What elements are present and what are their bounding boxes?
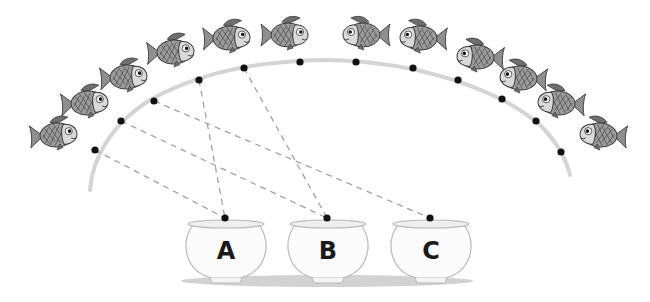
connection-line	[199, 80, 225, 218]
fish-icon[interactable]	[456, 37, 505, 73]
fish-icon[interactable]	[261, 16, 308, 50]
arc-dot[interactable]	[498, 95, 505, 102]
arc-dot[interactable]	[409, 64, 416, 71]
arc-dot[interactable]	[532, 117, 539, 124]
connection-lines	[95, 68, 430, 218]
arc-dot[interactable]	[352, 58, 359, 65]
arc-dot[interactable]	[150, 97, 157, 104]
bowl-label: C	[422, 237, 440, 265]
connection-line	[121, 121, 327, 218]
arc-dot[interactable]	[117, 117, 124, 124]
fish-icon[interactable]	[499, 58, 548, 95]
fish-icon[interactable]	[99, 57, 148, 94]
arc-dot[interactable]	[454, 76, 461, 83]
arc-path	[90, 60, 570, 190]
bowl-dot[interactable]	[221, 214, 228, 221]
bowl-c[interactable]: C	[391, 214, 471, 283]
bowl-dot[interactable]	[426, 214, 433, 221]
fish-icon[interactable]	[399, 19, 447, 54]
connection-line	[154, 101, 430, 218]
arc-dot[interactable]	[296, 58, 303, 65]
arc-dot[interactable]	[557, 148, 564, 155]
puzzle-canvas: A B C	[0, 0, 650, 302]
connection-line	[244, 68, 327, 218]
bowl-dot[interactable]	[323, 214, 330, 221]
arc-dot[interactable]	[195, 76, 202, 83]
fish-icon[interactable]	[202, 19, 250, 54]
arc-dot[interactable]	[240, 64, 247, 71]
fish-icon[interactable]	[579, 115, 628, 152]
fish-icon[interactable]	[29, 115, 78, 152]
bowl-label: A	[217, 237, 236, 265]
fish-icon[interactable]	[146, 32, 195, 68]
bowl-a[interactable]: A	[186, 214, 266, 283]
arc-dot[interactable]	[91, 146, 98, 153]
bowl-label: B	[319, 237, 337, 265]
fish-group	[29, 16, 628, 151]
bowl-b[interactable]: B	[288, 214, 368, 283]
fish-icon[interactable]	[343, 16, 390, 50]
